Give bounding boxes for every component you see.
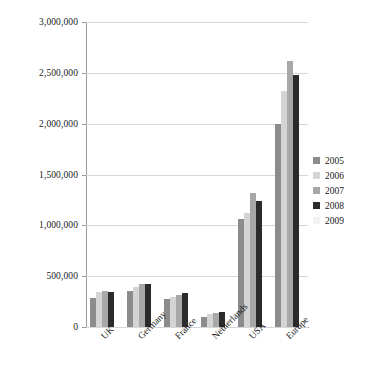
- legend-swatch-icon: [313, 217, 320, 224]
- legend-swatch-icon: [313, 157, 320, 164]
- y-axis-tick-label: 1,000,000: [0, 220, 78, 230]
- bar-group: [197, 22, 234, 327]
- legend-label: 2008: [325, 201, 344, 211]
- bar: [256, 201, 262, 327]
- bar-chart: 0500,0001,000,0001,500,0002,000,0002,500…: [0, 0, 366, 392]
- legend-swatch-icon: [313, 187, 320, 194]
- y-axis-tick-label: 2,000,000: [0, 119, 78, 129]
- legend-label: 2006: [325, 171, 344, 181]
- legend-label: 2005: [325, 156, 344, 166]
- y-axis-tick-label: 3,000,000: [0, 17, 78, 27]
- legend-item: 2006: [313, 168, 344, 183]
- bar-group: [234, 22, 271, 327]
- bar-group: [123, 22, 160, 327]
- legend-swatch-icon: [313, 172, 320, 179]
- chart-legend: 20052006200720082009: [313, 153, 344, 228]
- gridline: [86, 327, 308, 328]
- y-axis-tick-label: 2,500,000: [0, 68, 78, 78]
- legend-item: 2009: [313, 213, 344, 228]
- legend-label: 2009: [325, 216, 344, 226]
- legend-item: 2008: [313, 198, 344, 213]
- y-axis-tick-label: 0: [0, 322, 78, 332]
- legend-swatch-icon: [313, 202, 320, 209]
- legend-item: 2007: [313, 183, 344, 198]
- bar: [293, 75, 299, 327]
- bar: [108, 292, 114, 327]
- legend-label: 2007: [325, 186, 344, 196]
- bar-group: [271, 22, 308, 327]
- plot-area: [86, 22, 308, 327]
- legend-item: 2005: [313, 153, 344, 168]
- y-axis-tick-label: 500,000: [0, 271, 78, 281]
- bar-group: [86, 22, 123, 327]
- bar-group: [160, 22, 197, 327]
- y-axis-tick-label: 1,500,000: [0, 170, 78, 180]
